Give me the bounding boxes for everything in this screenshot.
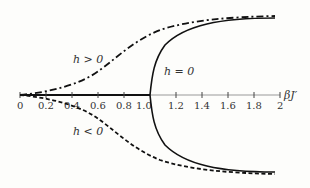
tick-label: 2 — [277, 100, 283, 111]
annotation-h-positive: h > 0 — [73, 53, 103, 66]
tick-label: 1.4 — [194, 100, 210, 111]
annotation-h-negative: h < 0 — [73, 125, 103, 138]
x-axis-label: βJ′ — [283, 89, 298, 102]
tick-label: 1.6 — [220, 100, 236, 111]
tick-label: 1.2 — [168, 100, 184, 111]
tick-label: 0 — [17, 100, 23, 111]
tick-label: 1.8 — [246, 100, 262, 111]
chart: 0 0.2 0.4 0.6 0.8 1.0 1.2 1.4 1.6 1.8 2 … — [0, 0, 310, 188]
series-h-zero-upper — [150, 18, 275, 95]
tick-label: 0.2 — [38, 100, 54, 111]
tick-label: 0.6 — [90, 100, 106, 111]
tick-label: 1.0 — [136, 100, 152, 111]
annotation-h-zero: h = 0 — [164, 65, 194, 78]
series-h-positive — [20, 16, 275, 95]
tick-label: 0.8 — [116, 100, 132, 111]
